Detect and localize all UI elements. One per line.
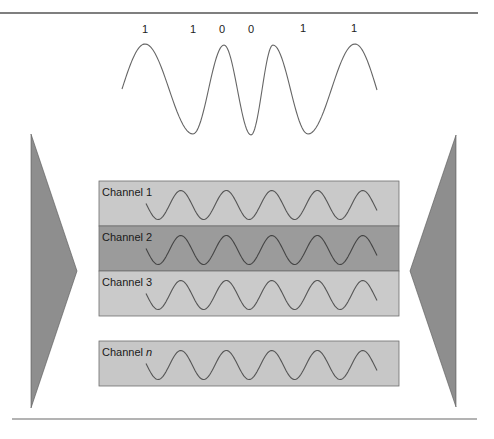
- channel-n: Channel n: [99, 341, 399, 386]
- fdm-diagram: 110011 Channel 1Channel 2Channel 3Channe…: [0, 0, 494, 439]
- channel-label: Channel 2: [102, 231, 152, 243]
- bit-label: 0: [248, 23, 254, 35]
- bit-label: 1: [190, 23, 196, 35]
- channel-stack: Channel 1Channel 2Channel 3Channel n: [99, 181, 399, 386]
- channel-label: Channel n: [102, 346, 152, 358]
- bit-label: 1: [142, 23, 148, 35]
- channel-label: Channel 3: [102, 276, 152, 288]
- bit-sequence-labels: 110011: [142, 22, 357, 35]
- bit-label: 1: [300, 22, 306, 34]
- channel-3: Channel 3: [99, 271, 399, 316]
- bit-label: 0: [219, 23, 225, 35]
- channel-2: Channel 2: [99, 226, 399, 271]
- bit-label: 1: [351, 22, 357, 34]
- fsk-modulated-wave: [122, 44, 377, 135]
- demultiplexer-triangle: [410, 135, 456, 407]
- channel-label: Channel 1: [102, 186, 152, 198]
- channel-1: Channel 1: [99, 181, 399, 226]
- multiplexer-triangle: [31, 134, 77, 408]
